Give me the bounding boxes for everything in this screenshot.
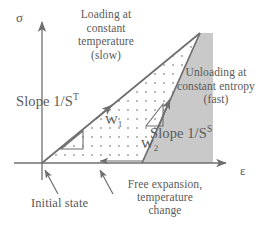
loading-annotation-line-4: (slow) [62, 49, 150, 63]
loading-annotation-line-2: constant [62, 22, 150, 36]
initial-state-label: Initial state [31, 196, 88, 211]
residual-strain-pointer [100, 170, 113, 194]
unloading-slope-superscript: S [207, 124, 212, 134]
loading-annotation: Loading at constant temperature (slow) [62, 8, 150, 62]
loading-annotation-line-1: Loading at [62, 8, 150, 22]
y-axis-label: σ [16, 10, 23, 25]
x-axis-label: ε [240, 163, 246, 178]
free-expansion-label: Free expansion, temperature change [122, 178, 208, 218]
work-2-text: W [141, 136, 154, 151]
loading-slope-label: Slope 1/ST [16, 92, 79, 110]
unloading-slope-text: Slope 1/S [150, 125, 207, 141]
work-2-subscript: 2 [154, 143, 159, 153]
unloading-annotation-line-3: (fast) [166, 93, 266, 107]
unloading-annotation-line-1: Unloading at [166, 66, 266, 80]
work-1-subscript: 1 [118, 119, 123, 129]
stress-strain-diagram: σ ε Loading at constant temperature (slo… [0, 0, 269, 228]
loading-slope-superscript: T [73, 92, 79, 102]
work-1-text: W [105, 112, 118, 127]
unloading-annotation: Unloading at constant entropy (fast) [166, 66, 266, 107]
free-expansion-line-1: Free expansion, [122, 178, 208, 191]
work-2-label: W2 [141, 136, 158, 152]
work-1-label: W1 [105, 112, 122, 128]
loading-slope-text: Slope 1/S [16, 93, 73, 109]
loading-annotation-line-3: temperature [62, 35, 150, 49]
unloading-slope-label: Slope 1/SS [150, 124, 212, 142]
free-expansion-line-3: change [122, 204, 208, 217]
free-expansion-line-2: temperature [122, 191, 208, 204]
unloading-annotation-line-2: constant entropy [166, 80, 266, 94]
initial-state-pointer [45, 170, 58, 194]
